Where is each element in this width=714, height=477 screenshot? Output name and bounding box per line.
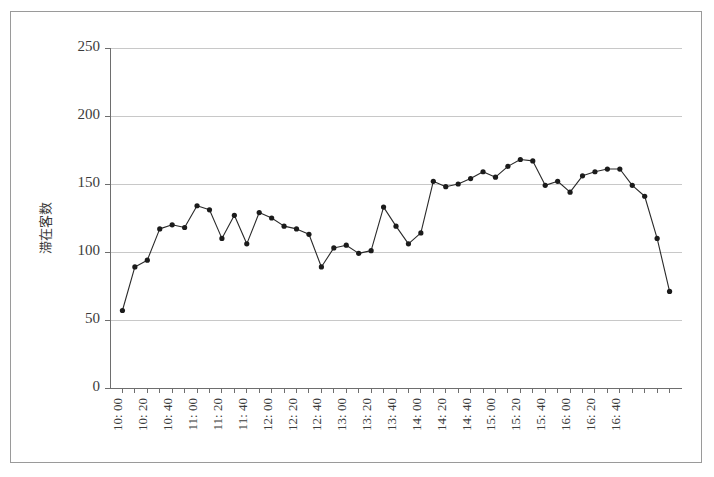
- data-point-marker: [294, 226, 299, 231]
- x-axis-tick-label: 11: 40: [235, 398, 250, 430]
- x-axis-tick-label: 12: 40: [309, 398, 324, 431]
- data-point-marker: [157, 226, 162, 231]
- data-point-marker: [555, 179, 560, 184]
- x-axis-tick-label: 11: 20: [210, 398, 225, 430]
- x-axis-tick-label: 10: 40: [160, 398, 175, 431]
- x-axis-tick-label: 16: 40: [608, 398, 623, 431]
- data-point-marker: [132, 264, 137, 269]
- chart-figure: 050100150200250 10: 0010: 2010: 4011: 00…: [0, 0, 714, 477]
- data-point-marker: [456, 181, 461, 186]
- y-axis-tick-label: 100: [78, 242, 101, 258]
- data-point-marker: [207, 207, 212, 212]
- series-line-stay-count: [122, 160, 669, 311]
- x-axis-tick-label: 13: 40: [384, 398, 399, 431]
- data-point-marker: [443, 184, 448, 189]
- data-point-marker: [617, 166, 622, 171]
- data-point-marker: [580, 173, 585, 178]
- gridlines-group: [110, 48, 682, 320]
- data-point-marker: [182, 225, 187, 230]
- x-axis-tick-label: 14: 40: [459, 398, 474, 431]
- x-axis-tick-label: 10: 20: [135, 398, 150, 431]
- x-axis-tick-label: 10: 00: [110, 398, 125, 431]
- data-point-marker: [418, 230, 423, 235]
- data-point-marker: [480, 169, 485, 174]
- data-point-marker: [468, 176, 473, 181]
- data-point-marker: [518, 157, 523, 162]
- data-point-marker: [567, 190, 572, 195]
- data-point-marker: [170, 222, 175, 227]
- data-point-marker: [369, 248, 374, 253]
- data-point-marker: [381, 205, 386, 210]
- data-point-marker: [344, 243, 349, 248]
- x-axis-tick-label: 16: 00: [558, 398, 573, 431]
- data-point-marker: [667, 289, 672, 294]
- y-axis-tick-label: 150: [78, 174, 101, 190]
- x-axis-tick-label: 14: 20: [434, 398, 449, 431]
- data-point-marker: [530, 158, 535, 163]
- x-axis-tick-label: 11: 00: [185, 398, 200, 430]
- y-axis-tick-label: 50: [85, 310, 100, 326]
- x-axis-tick-label: 12: 00: [260, 398, 275, 431]
- data-point-marker: [642, 194, 647, 199]
- line-chart-canvas: 050100150200250 10: 0010: 2010: 4011: 00…: [0, 0, 714, 477]
- y-axis-title: 滞在客数: [38, 202, 53, 254]
- data-point-marker: [281, 224, 286, 229]
- data-point-marker: [493, 175, 498, 180]
- x-axis-tick-label: 16: 20: [583, 398, 598, 431]
- x-axis-tick-label: 15: 40: [533, 398, 548, 431]
- x-axis-tick-label: 15: 20: [508, 398, 523, 431]
- data-point-marker: [194, 203, 199, 208]
- data-point-marker: [543, 183, 548, 188]
- data-point-marker: [145, 258, 150, 263]
- x-axis-tick-label: 14: 00: [409, 398, 424, 431]
- data-point-marker: [244, 241, 249, 246]
- y-axis-tick-group: [105, 48, 110, 388]
- data-point-marker: [331, 245, 336, 250]
- y-axis-tick-label: 0: [93, 378, 101, 394]
- y-axis-tick-labels: 050100150200250: [78, 38, 101, 394]
- data-point-marker: [605, 166, 610, 171]
- data-point-marker: [655, 236, 660, 241]
- x-axis-tick-label: 13: 20: [359, 398, 374, 431]
- data-point-marker: [319, 264, 324, 269]
- x-axis-tick-label: 15: 00: [483, 398, 498, 431]
- data-point-marker: [431, 179, 436, 184]
- data-point-marker: [306, 232, 311, 237]
- data-point-marker: [120, 308, 125, 313]
- x-axis-tick-label: 12: 20: [285, 398, 300, 431]
- series-marker-group: [120, 157, 672, 313]
- data-point-marker: [592, 169, 597, 174]
- data-point-marker: [406, 241, 411, 246]
- x-axis-tick-group: [122, 388, 669, 393]
- data-point-marker: [393, 224, 398, 229]
- x-axis-tick-labels: 10: 0010: 2010: 4011: 0011: 2011: 4012: …: [110, 398, 622, 431]
- data-point-marker: [219, 236, 224, 241]
- data-point-marker: [505, 164, 510, 169]
- y-axis-tick-label: 200: [78, 106, 101, 122]
- data-point-marker: [269, 215, 274, 220]
- data-point-marker: [257, 210, 262, 215]
- data-point-marker: [356, 251, 361, 256]
- data-point-marker: [630, 183, 635, 188]
- data-point-marker: [232, 213, 237, 218]
- y-axis-tick-label: 250: [78, 38, 101, 54]
- x-axis-tick-label: 13: 00: [334, 398, 349, 431]
